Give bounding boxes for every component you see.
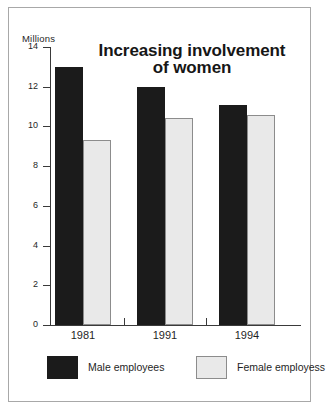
y-tick-12 [43, 87, 51, 88]
x-axis-label-1994: 1994 [217, 329, 277, 341]
x-tick-separator-1 [206, 318, 207, 325]
y-tick-label-8: 8 [12, 161, 38, 170]
legend-label-male: Male employees [88, 361, 164, 373]
y-tick-2 [43, 285, 51, 286]
y-tick-label-wrap: 10 [12, 121, 38, 131]
chart-title-line-2: of women [92, 59, 292, 76]
bar-1994-male [219, 105, 247, 325]
y-tick-label-14: 14 [12, 42, 38, 51]
y-tick-6 [43, 206, 51, 207]
y-tick-8 [43, 166, 51, 167]
y-tick-label-wrap: 4 [12, 241, 38, 251]
y-tick-label-wrap: 14 [12, 42, 38, 52]
y-tick-label-10: 10 [12, 121, 38, 130]
y-tick-label-0: 0 [12, 320, 38, 329]
y-tick-14 [43, 47, 51, 48]
legend-swatch-male [47, 356, 78, 379]
y-tick-label-12: 12 [12, 82, 38, 91]
x-axis-line [50, 325, 301, 326]
bar-1981-female [83, 140, 111, 325]
legend-swatch-female [196, 356, 227, 379]
bar-1991-female [165, 118, 193, 325]
legend-label-female: Female employess [237, 361, 325, 373]
chart-legend: Male employeesFemale employess [0, 356, 329, 390]
chart-figure: Millions Increasing involvement of women… [0, 0, 329, 412]
y-tick-label-wrap: 2 [12, 280, 38, 290]
x-axis-label-1991: 1991 [135, 329, 195, 341]
y-axis-line [50, 47, 51, 326]
y-tick-label-6: 6 [12, 201, 38, 210]
y-tick-label-wrap: 6 [12, 201, 38, 211]
x-axis-label-1981: 1981 [53, 329, 113, 341]
x-tick-separator-0 [124, 318, 125, 325]
y-tick-label-wrap: 0 [12, 320, 38, 330]
y-tick-10 [43, 126, 51, 127]
y-tick-0 [43, 325, 51, 326]
y-tick-label-wrap: 12 [12, 82, 38, 92]
bar-1991-male [137, 87, 165, 325]
y-tick-label-wrap: 8 [12, 161, 38, 171]
y-tick-label-2: 2 [12, 280, 38, 289]
y-tick-4 [43, 246, 51, 247]
chart-title-line-1: Increasing involvement [92, 42, 292, 59]
y-tick-label-4: 4 [12, 241, 38, 250]
chart-title: Increasing involvement of women [92, 42, 292, 77]
bar-1994-female [247, 115, 275, 325]
bar-1981-male [55, 67, 83, 325]
